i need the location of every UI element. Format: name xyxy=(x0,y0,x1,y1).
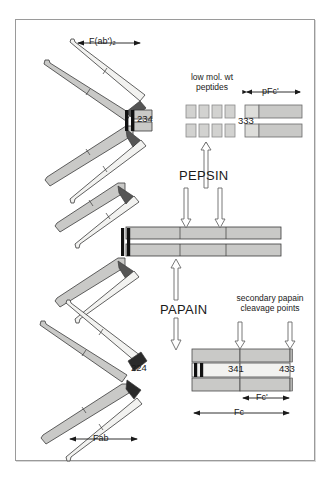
label-low-mol-wt-line1: low mol. wt xyxy=(191,72,233,82)
fab-light-chain-1 xyxy=(66,300,141,362)
low-mol-wt-peptide-blocks xyxy=(186,105,235,137)
label-secondary-cleavage: secondary papain cleavage points xyxy=(216,294,324,313)
label-low-mol-wt: low mol. wt peptides xyxy=(176,73,248,92)
label-residue-224: 224 xyxy=(131,363,147,374)
label-pepsin: PEPSIN xyxy=(179,169,228,184)
pepsin-down-arrow-left xyxy=(181,188,191,228)
label-low-mol-wt-line2: peptides xyxy=(196,82,228,92)
central-arm-heavy xyxy=(55,183,125,232)
light-chain-upper-1 xyxy=(70,39,145,101)
secondary-cleavage-arrow-433 xyxy=(285,322,295,349)
label-residue-234: 234 xyxy=(137,114,153,125)
central-arm-heavy-2 xyxy=(55,258,125,307)
label-fc: Fc xyxy=(234,407,244,417)
label-fab2: F(ab')₂ xyxy=(89,36,116,46)
antibody-cleavage-figure: F(ab')₂ low mol. wt peptides pFc' 234 33… xyxy=(0,0,332,481)
central-fc-bars xyxy=(126,227,281,256)
label-residue-341: 341 xyxy=(228,364,244,375)
antibody-diagram xyxy=(0,0,332,481)
pepsin-down-arrow-right xyxy=(215,188,225,228)
label-fc-prime: Fc' xyxy=(256,392,268,402)
label-residue-333: 333 xyxy=(238,116,254,127)
fab2-upper-arm xyxy=(44,39,152,121)
label-residue-433: 433 xyxy=(279,364,295,375)
label-fab: Fab xyxy=(93,433,109,443)
fab2-lower-arm xyxy=(45,122,152,203)
label-secondary-line2: cleavage points xyxy=(240,303,299,313)
label-papain: PAPAIN xyxy=(160,303,208,318)
heavy-chain-upper-2 xyxy=(45,126,133,186)
label-secondary-line1: secondary papain xyxy=(236,293,303,303)
fab-heavy-chain-2 xyxy=(41,384,129,444)
fab-fragment-lower xyxy=(41,380,142,461)
secondary-cleavage-arrow-341 xyxy=(235,322,245,349)
papain-down-arrow xyxy=(171,318,181,350)
label-pfc: pFc' xyxy=(262,86,279,96)
papain-up-arrow xyxy=(171,259,181,300)
heavy-chain-upper-1 xyxy=(44,60,131,121)
fab-heavy-chain-1 xyxy=(40,321,127,382)
